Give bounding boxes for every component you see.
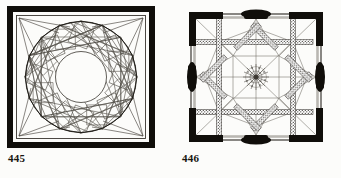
central-boss-446 [243,64,269,90]
buttress-w [187,62,197,92]
figure-445 [7,6,155,148]
buttress-s [241,136,271,145]
figure-446 [181,5,331,149]
figure-446-caption: 446 [182,152,199,164]
figure-445-caption: 445 [8,152,25,164]
inner-circle-445 [56,52,107,103]
figure-446-drawing [181,5,331,149]
plate-sheet: 445 [0,0,341,178]
buttress-e [315,62,325,92]
figure-445-drawing [7,6,155,148]
buttress-n [241,10,271,19]
